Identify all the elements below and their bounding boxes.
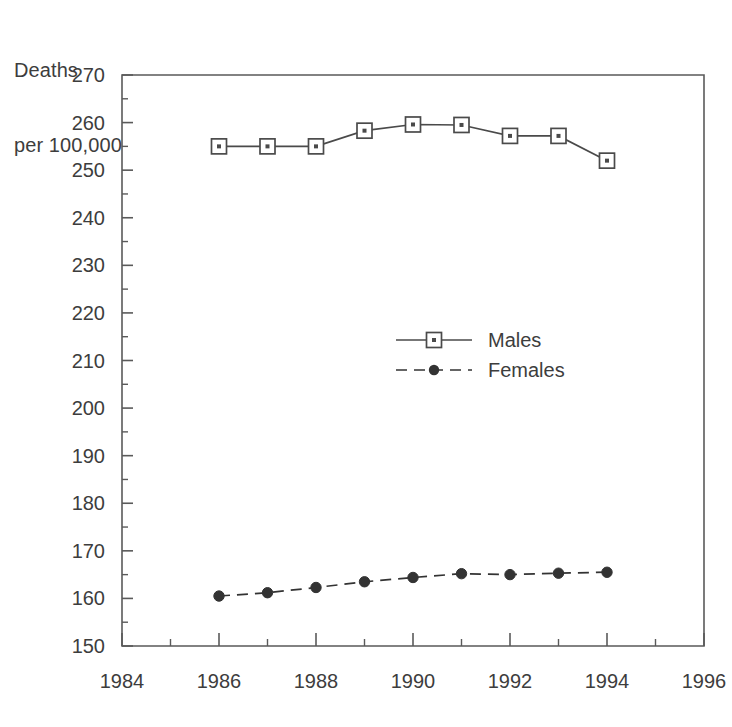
data-point-marker bbox=[262, 588, 272, 598]
data-point-marker bbox=[456, 568, 466, 578]
y-axis-tick-label: 210 bbox=[72, 350, 105, 372]
x-axis-tick-label: 1988 bbox=[294, 670, 339, 692]
series-males bbox=[212, 117, 615, 168]
data-point-marker bbox=[408, 572, 418, 582]
data-point-marker bbox=[359, 577, 369, 587]
data-point-marker bbox=[311, 582, 321, 592]
legend-marker-center bbox=[432, 338, 436, 342]
data-point-center bbox=[557, 134, 561, 138]
data-point-center bbox=[314, 144, 318, 148]
data-point-marker bbox=[602, 567, 612, 577]
y-axis-tick-label: 240 bbox=[72, 207, 105, 229]
data-point-marker bbox=[505, 569, 515, 579]
y-axis-ticks: 150160170180190200210220230240250260270 bbox=[72, 64, 133, 657]
y-axis-tick-label: 230 bbox=[72, 254, 105, 276]
y-axis-tick-label: 170 bbox=[72, 540, 105, 562]
y-axis-tick-label: 160 bbox=[72, 587, 105, 609]
data-point-center bbox=[605, 159, 609, 163]
x-axis-tick-label: 1990 bbox=[391, 670, 436, 692]
y-axis-tick-label: 200 bbox=[72, 397, 105, 419]
data-point-marker bbox=[214, 591, 224, 601]
x-axis-ticks: 1984198619881990199219941996 bbox=[100, 633, 727, 692]
line-chart-svg: 150160170180190200210220230240250260270 … bbox=[0, 0, 732, 727]
legend-item-females[interactable]: Females bbox=[396, 359, 565, 381]
plot-border bbox=[122, 75, 704, 646]
y-axis-tick-label: 150 bbox=[72, 635, 105, 657]
plot-axes bbox=[122, 75, 704, 646]
legend-marker-circle bbox=[429, 365, 439, 375]
data-point-center bbox=[363, 129, 367, 133]
chart-container: Deaths per 100,000 150160170180190200210… bbox=[0, 0, 732, 727]
data-point-center bbox=[508, 134, 512, 138]
y-axis-tick-label: 190 bbox=[72, 445, 105, 467]
chart-legend: MalesFemales bbox=[396, 329, 565, 381]
data-point-center bbox=[411, 122, 415, 126]
x-axis-tick-label: 1984 bbox=[100, 670, 145, 692]
data-point-center bbox=[266, 144, 270, 148]
x-axis-tick-label: 1994 bbox=[585, 670, 630, 692]
x-axis-tick-label: 1992 bbox=[488, 670, 533, 692]
y-axis-tick-label: 220 bbox=[72, 302, 105, 324]
y-axis-tick-label: 270 bbox=[72, 64, 105, 86]
y-axis-tick-label: 260 bbox=[72, 112, 105, 134]
x-axis-tick-label: 1996 bbox=[682, 670, 727, 692]
data-point-center bbox=[460, 123, 464, 127]
y-axis-tick-label: 180 bbox=[72, 492, 105, 514]
data-point-marker bbox=[553, 568, 563, 578]
y-axis-tick-label: 250 bbox=[72, 159, 105, 181]
legend-item-males[interactable]: Males bbox=[396, 329, 541, 351]
legend-label: Males bbox=[488, 329, 541, 351]
legend-label: Females bbox=[488, 359, 565, 381]
series-females bbox=[214, 567, 612, 601]
data-point-center bbox=[217, 144, 221, 148]
x-axis-tick-label: 1986 bbox=[197, 670, 242, 692]
